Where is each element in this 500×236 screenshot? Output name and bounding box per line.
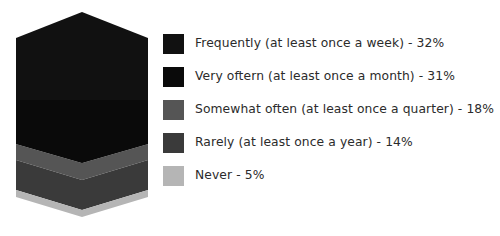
legend-item-label: Somewhat often (at least once a quarter)…	[195, 103, 494, 115]
chart-legend: Frequently (at least once a week) - 32% …	[163, 27, 500, 192]
legend-swatch-icon	[163, 67, 184, 87]
legend-swatch-icon	[163, 166, 184, 186]
legend-item-label: Rarely (at least once a year) - 14%	[195, 136, 413, 148]
funnel-chart-graphic	[0, 0, 165, 236]
legend-swatch-icon	[163, 133, 184, 153]
legend-item-label: Never - 5%	[195, 169, 264, 181]
legend-item-somewhat-often[interactable]: Somewhat often (at least once a quarter)…	[163, 93, 500, 126]
legend-item-very-oftern[interactable]: Very oftern (at least once a month) - 31…	[163, 60, 500, 93]
legend-swatch-icon	[163, 34, 184, 54]
legend-item-frequently[interactable]: Frequently (at least once a week) - 32%	[163, 27, 500, 60]
legend-item-label: Very oftern (at least once a month) - 31…	[195, 70, 455, 82]
legend-item-rarely[interactable]: Rarely (at least once a year) - 14%	[163, 126, 500, 159]
funnel-chart-figure: Frequently (at least once a week) - 32% …	[0, 0, 500, 236]
legend-item-never[interactable]: Never - 5%	[163, 159, 500, 192]
legend-item-label: Frequently (at least once a week) - 32%	[195, 37, 444, 49]
legend-swatch-icon	[163, 100, 184, 120]
